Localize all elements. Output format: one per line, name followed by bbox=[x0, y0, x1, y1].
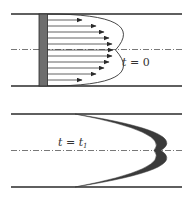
label-t0: t = 0 bbox=[122, 56, 150, 69]
dye-slab bbox=[39, 14, 48, 86]
velocity-arrows bbox=[48, 20, 113, 80]
label-t1: t = t1 bbox=[58, 136, 88, 150]
velocity-profile-diagram: t = 0 t = t1 bbox=[0, 0, 191, 198]
panel-t1: t = t1 bbox=[11, 114, 182, 187]
panel-t0: t = 0 bbox=[11, 14, 182, 86]
